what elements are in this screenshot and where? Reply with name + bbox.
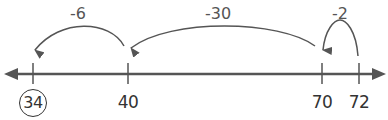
- jump-arrow-minus-30: [131, 26, 315, 48]
- jump-label-minus-6: -6: [70, 4, 86, 23]
- jump-arrow-minus-6: [35, 26, 124, 50]
- tick-label-70: 70: [312, 92, 333, 112]
- right-arrowhead-icon: [372, 68, 386, 80]
- jump-label-minus-30: -30: [205, 4, 231, 23]
- jump-label-minus-2: -2: [332, 4, 348, 23]
- tick-label-34-circled: 34: [19, 89, 47, 117]
- number-line: [4, 68, 386, 80]
- jump-arrow-minus-2: [323, 20, 358, 56]
- tick-label-40: 40: [118, 92, 139, 112]
- tick-label-72: 72: [349, 92, 370, 112]
- left-arrowhead-icon: [4, 68, 18, 80]
